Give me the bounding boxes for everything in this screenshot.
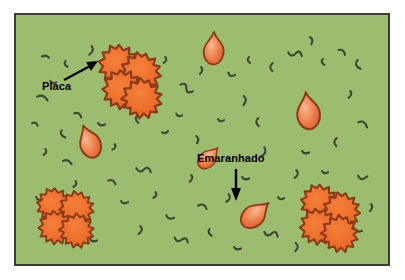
thread xyxy=(302,150,309,155)
thread xyxy=(200,67,202,74)
thread xyxy=(64,61,67,67)
thread xyxy=(153,192,156,198)
thread xyxy=(226,194,230,202)
thread xyxy=(60,130,65,138)
thread xyxy=(295,243,298,251)
thread xyxy=(190,175,193,182)
thread xyxy=(322,170,328,174)
thread xyxy=(136,165,152,174)
thread xyxy=(166,214,174,220)
placa-arrow xyxy=(64,61,98,80)
thread xyxy=(89,46,93,55)
thread xyxy=(264,229,279,239)
plaque xyxy=(99,45,168,124)
thread xyxy=(174,234,189,245)
thread xyxy=(32,122,38,126)
thread xyxy=(37,95,48,101)
thread xyxy=(358,120,369,127)
thread xyxy=(162,131,168,133)
thread xyxy=(243,96,247,105)
label-emaranhado: Emaranhado xyxy=(197,153,265,164)
thread xyxy=(256,118,259,126)
thread xyxy=(208,229,211,236)
thread xyxy=(334,138,338,146)
thread xyxy=(164,57,167,63)
thread xyxy=(338,48,346,54)
thread xyxy=(98,122,105,127)
thread xyxy=(44,149,47,155)
tangle xyxy=(73,122,105,161)
tangle xyxy=(236,195,275,233)
emaranhado-arrow xyxy=(231,169,241,201)
thread xyxy=(73,181,76,187)
thread xyxy=(228,72,236,77)
thread xyxy=(370,204,372,211)
thread xyxy=(195,136,199,143)
label-placa: Placa xyxy=(42,81,71,92)
figure-container: Placa Emaranhado xyxy=(0,0,405,280)
thread xyxy=(242,176,249,181)
thread xyxy=(63,159,72,164)
thread xyxy=(198,204,208,209)
thread xyxy=(121,200,128,204)
thread xyxy=(288,49,303,58)
thread xyxy=(278,196,284,200)
tangle xyxy=(294,91,322,131)
thread xyxy=(270,63,274,71)
thread xyxy=(234,246,241,251)
plaque xyxy=(36,187,100,253)
thread xyxy=(356,60,361,69)
thread xyxy=(74,112,82,118)
thread xyxy=(248,57,250,63)
thread xyxy=(349,91,352,98)
thread xyxy=(321,59,324,65)
thread xyxy=(309,37,314,44)
illustration-panel xyxy=(14,13,390,266)
thread xyxy=(108,179,116,184)
thread xyxy=(358,174,368,180)
plaque xyxy=(297,185,364,258)
thread xyxy=(42,55,49,58)
thread xyxy=(179,83,194,94)
tangle xyxy=(204,32,224,65)
thread xyxy=(218,118,224,122)
scene-svg xyxy=(16,15,388,264)
thread xyxy=(139,226,142,234)
thread xyxy=(90,238,97,243)
thread xyxy=(112,144,116,150)
thread xyxy=(295,170,298,178)
thread xyxy=(176,113,182,118)
